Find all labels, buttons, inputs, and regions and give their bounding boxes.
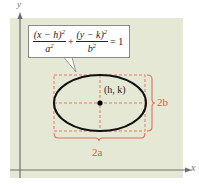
term-x-numerator: (x − h) — [34, 29, 62, 40]
center-label: (h, k) — [104, 84, 126, 95]
equation-callout: (x − h)2 a2 + (y − k)2 b2 = 1 — [28, 25, 130, 58]
term-x-fraction: (x − h)2 a2 — [33, 29, 66, 54]
vertical-dimension-label: 2b — [157, 96, 168, 108]
term-x-numerator-exponent: 2 — [62, 28, 65, 35]
y-axis-label: y — [17, 0, 21, 9]
equals-one: = 1 — [110, 36, 123, 47]
x-axis-label: x — [191, 162, 195, 173]
ellipse-diagram: y x (x − h)2 a2 + (y − k)2 b2 = 1 (h, k)… — [0, 0, 199, 184]
horizontal-dimension-label: 2a — [92, 146, 102, 158]
term-y-fraction: (y − k)2 b2 — [76, 29, 109, 54]
term-x-denominator-exponent: 2 — [50, 42, 53, 49]
term-y-denominator-exponent: 2 — [93, 42, 96, 49]
center-point — [97, 100, 102, 105]
y-axis-arrow-icon — [18, 12, 23, 19]
plus-sign: + — [68, 36, 74, 47]
term-y-numerator-exponent: 2 — [104, 28, 107, 35]
term-y-numerator: (y − k) — [77, 29, 104, 40]
